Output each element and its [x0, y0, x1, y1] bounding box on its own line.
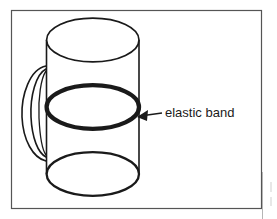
elastic-band-ellipse — [47, 85, 139, 129]
elastic-band-label: elastic band — [165, 105, 234, 120]
cylinder-elastic-band-figure: elastic band — [0, 0, 277, 219]
figure-page: elastic band — [0, 0, 277, 219]
cylinder-top-rim-ellipse — [47, 18, 139, 62]
